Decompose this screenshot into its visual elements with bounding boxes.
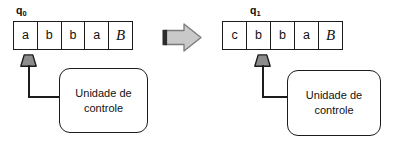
state-label-before-subscript: 0: [23, 9, 27, 18]
tape-cell: b: [271, 22, 295, 49]
head-connector-vertical: [28, 65, 30, 98]
tape-cell: b: [38, 22, 62, 49]
tape-cell-blank: B: [109, 22, 132, 49]
tape-cell: b: [247, 22, 271, 49]
machine-after: q1 c b b a B Unidade de controle: [209, 0, 393, 150]
state-label-after-letter: q: [250, 4, 256, 16]
tape-cell: c: [223, 22, 247, 49]
machine-before: q0 a b b a B Unidade de controle: [0, 0, 160, 150]
tape-cell-blank: B: [319, 22, 342, 49]
control-unit-line2: controle: [314, 104, 353, 116]
head-connector-horizontal: [28, 96, 61, 98]
tape-cell: b: [62, 22, 86, 49]
control-unit-line1: Unidade de: [306, 89, 362, 101]
tape-before: a b b a B: [13, 21, 133, 50]
transition-arrow-icon: [162, 23, 204, 52]
tape-cell: a: [85, 22, 109, 49]
state-label-after-subscript: 1: [257, 9, 261, 18]
tape-cell: a: [14, 22, 38, 49]
control-unit-line2: controle: [84, 102, 123, 114]
tape-cell: a: [295, 22, 319, 49]
control-unit-before: Unidade de controle: [59, 68, 148, 133]
tape-after: c b b a B: [222, 21, 343, 50]
state-label-before-letter: q: [16, 4, 22, 16]
turing-machine-diagram: q0 a b b a B Unidade de controle: [0, 0, 393, 150]
control-unit-line1: Unidade de: [75, 87, 131, 99]
head-connector-horizontal: [262, 96, 289, 98]
head-connector-vertical: [262, 65, 264, 98]
state-label-before: q0: [16, 5, 27, 16]
control-unit-after: Unidade de controle: [287, 70, 381, 136]
state-label-after: q1: [250, 5, 261, 16]
